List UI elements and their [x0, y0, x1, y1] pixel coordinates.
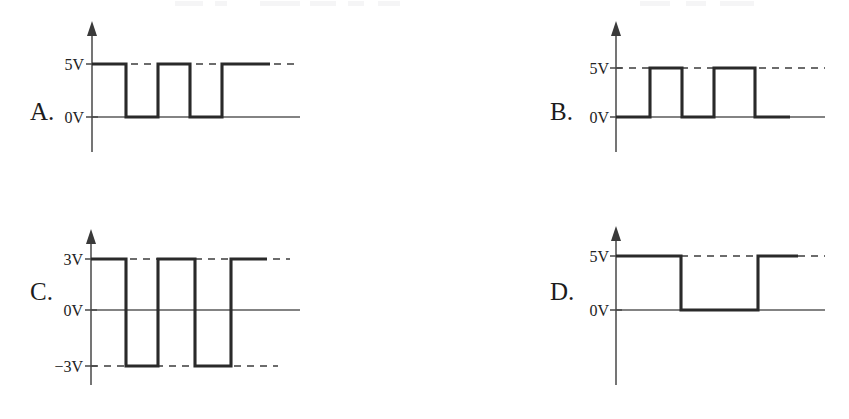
axis-label-c-1: 0V — [63, 302, 83, 319]
axis-label-b-1: 0V — [589, 109, 609, 126]
axis-label-c-0: 3V — [63, 251, 83, 268]
panel-letter-a: A. — [30, 98, 54, 125]
panel-letter-b: B. — [550, 98, 573, 125]
waveform-figure: A.5V0VB.5V0VC.3V0V−3VD.5V0V — [0, 0, 849, 419]
axis-label-a-1: 0V — [64, 109, 84, 126]
axis-label-a-0: 5V — [64, 56, 84, 73]
panel-letter-c: C. — [30, 278, 53, 305]
panel-letter-d: D. — [550, 278, 574, 305]
axis-label-d-0: 5V — [589, 248, 609, 265]
axis-label-d-1: 0V — [589, 302, 609, 319]
axis-label-c-2: −3V — [54, 358, 83, 375]
figure-canvas: A.5V0VB.5V0VC.3V0V−3VD.5V0V — [0, 0, 849, 419]
axis-label-b-0: 5V — [589, 60, 609, 77]
